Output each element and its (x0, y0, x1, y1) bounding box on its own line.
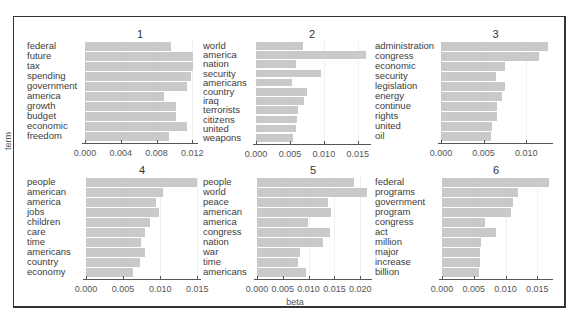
x-tick-label: 0.005 (279, 149, 302, 159)
bar-energy (441, 92, 502, 101)
bar-nation (257, 238, 323, 247)
bar-legislation (441, 82, 505, 91)
bar-act (442, 228, 496, 237)
bar-federal (442, 178, 549, 187)
x-tick (506, 276, 507, 279)
bar-security (256, 70, 321, 78)
x-axis-line (82, 143, 198, 144)
x-tick-label: 0.010 (494, 284, 517, 294)
bar-america (85, 92, 164, 101)
bar-america (257, 218, 308, 227)
bar-united (256, 125, 296, 133)
bar-congress (257, 228, 330, 237)
x-tick (360, 276, 361, 279)
x-tick-label: 0.012 (181, 148, 204, 158)
bar-government (442, 198, 513, 207)
x-tick (358, 141, 359, 144)
facet-panel-4: 4peopleamericanamericajobschildrencareti… (27, 164, 208, 299)
x-tick-label: 0.015 (347, 149, 370, 159)
bar-rights (441, 112, 497, 121)
x-tick (290, 141, 291, 144)
bar-time (257, 258, 298, 267)
bar-peace (257, 198, 328, 207)
x-tick (256, 141, 257, 144)
x-tick-label: 0.000 (245, 149, 268, 159)
bar-children (86, 218, 150, 227)
facet-title: 4 (86, 164, 198, 176)
bar-million (442, 238, 481, 247)
bar-weapons (256, 134, 293, 142)
x-tick-label: 0.015 (526, 284, 549, 294)
bar-americans (257, 268, 306, 277)
x-tick-label: 0.000 (431, 284, 454, 294)
x-tick-label: 0.005 (462, 284, 485, 294)
facet-panel-6: 6federalprogramsgovernmentprogramcongres… (375, 164, 560, 299)
bar-citizens (256, 116, 297, 124)
term-label: economy (27, 267, 71, 277)
bar-american (86, 188, 163, 197)
x-tick (442, 276, 443, 279)
bar-future (85, 52, 193, 61)
term-labels: peopleamericanamericajobschildrencaretim… (27, 177, 71, 277)
x-tick-label: 0.005 (112, 284, 135, 294)
bar-country (86, 258, 140, 267)
bar-budget (85, 112, 176, 121)
x-axis-line (438, 143, 553, 144)
x-tick (192, 140, 193, 143)
y-axis-label: term (3, 132, 13, 150)
bar-nation (256, 60, 296, 68)
facet-title: 5 (257, 164, 369, 176)
x-axis-line (254, 279, 372, 280)
bar-growth (85, 102, 176, 111)
bar-world (256, 42, 303, 50)
x-tick (309, 276, 310, 279)
bar-united (441, 122, 492, 131)
plot-area: 0.0000.0050.0100.015 (86, 177, 198, 279)
bar-congress (442, 218, 485, 227)
x-tick (157, 140, 158, 143)
facet-title: 6 (442, 164, 550, 176)
bar-program (442, 208, 511, 217)
x-tick (526, 140, 527, 143)
x-tick (123, 276, 124, 279)
bar-country (256, 88, 307, 96)
bar-spending (85, 72, 191, 81)
x-tick-label: 0.010 (149, 284, 172, 294)
x-tick-label: 0.005 (472, 148, 495, 158)
bar-economic (441, 62, 505, 71)
x-tick (85, 140, 86, 143)
term-labels: administrationcongresseconomicsecurityle… (375, 41, 434, 141)
facet-panel-5: 5peopleworldpeaceamericanamericacongress… (203, 164, 379, 299)
bar-care (86, 228, 145, 237)
x-tick (197, 276, 198, 279)
term-labels: federalprogramsgovernmentprogramcongress… (375, 177, 425, 277)
term-label: oil (375, 131, 434, 141)
bar-economy (86, 268, 133, 277)
x-tick-label: 0.020 (349, 284, 372, 294)
plot-area: 0.0000.0050.0100.0150.020 (257, 177, 369, 279)
plot-area: 0.0000.0050.0100.015 (442, 177, 550, 279)
bar-people (257, 178, 354, 187)
term-labels: federalfuturetaxspendinggovernmentameric… (27, 41, 77, 141)
x-tick (257, 276, 258, 279)
bar-jobs (86, 208, 159, 217)
bar-time (86, 238, 141, 247)
x-tick (121, 140, 122, 143)
x-axis-line (253, 144, 371, 145)
bar-economic (85, 122, 187, 131)
bar-americans (86, 248, 145, 257)
bar-people (86, 178, 197, 187)
bar-america (256, 51, 366, 59)
x-tick (160, 276, 161, 279)
x-tick-label: 0.000 (74, 148, 97, 158)
x-tick-label: 0.010 (313, 149, 336, 159)
x-tick-label: 0.005 (272, 284, 295, 294)
x-tick (86, 276, 87, 279)
x-tick (324, 141, 325, 144)
x-tick-label: 0.008 (145, 148, 168, 158)
bar-war (257, 248, 300, 257)
x-axis-line (439, 279, 553, 280)
x-tick-label: 0.015 (323, 284, 346, 294)
x-tick (537, 276, 538, 279)
x-tick (474, 276, 475, 279)
